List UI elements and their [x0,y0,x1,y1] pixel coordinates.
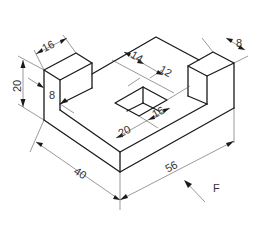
view-direction-label: F [213,182,220,194]
right-post-inner-bottom [188,96,207,104]
left-post-top-face [44,53,92,80]
base-back-top-edge [92,37,199,74]
base-left-bottom-edge [44,120,120,172]
hole-inner-bottom-left [127,103,143,111]
right-post-top-face [188,52,234,76]
dim-label-right-post-depth: 8 [236,37,242,49]
dim-label-post-height: 20 [11,80,23,92]
dim-label-base-length: 56 [163,158,179,174]
isometric-drawing: 16 20 8 14 12 16 20 [0,0,259,230]
dim-label-base-thickness: 8 [49,89,55,101]
view-direction-indicator: F [184,180,220,202]
base-right-bottom-edge [120,108,234,172]
dim-label-base-depth: 40 [72,165,89,182]
base-inner-top-edge [60,110,120,152]
dim-label-hole-length: 12 [158,63,175,80]
